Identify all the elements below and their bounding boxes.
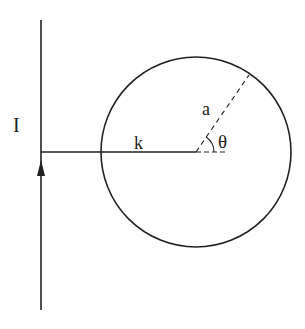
current-arrow-icon: [37, 160, 45, 176]
angle-arc: [206, 137, 214, 152]
distance-label: k: [134, 133, 143, 153]
diagram-canvas: I k a θ: [0, 0, 305, 329]
current-label: I: [13, 114, 20, 136]
radius-label: a: [202, 99, 210, 119]
angle-label: θ: [218, 131, 227, 152]
